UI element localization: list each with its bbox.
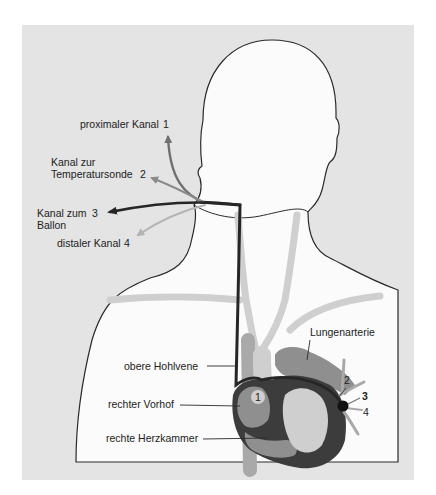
label-pulmonary-artery: Lungenarterie bbox=[310, 326, 375, 338]
channel-2-number: 2 bbox=[140, 168, 146, 180]
channel-4-number: 4 bbox=[124, 237, 130, 249]
channel-4-label: distaler Kanal bbox=[57, 237, 121, 249]
channel-3-number: 3 bbox=[92, 207, 98, 219]
atrium-port-number: 1 bbox=[255, 391, 261, 403]
tip-3-number: 3 bbox=[362, 390, 368, 402]
channel-2-label-line1: Kanal zur bbox=[51, 156, 96, 168]
channel-3-label-line2: Ballon bbox=[37, 219, 66, 231]
label-right-atrium: rechter Vorhof bbox=[108, 398, 174, 410]
channel-3-label-line1: Kanal zum bbox=[37, 207, 87, 219]
channel-2-label-line2: Temperatursonde bbox=[51, 168, 133, 180]
tip-2-number: 2 bbox=[344, 374, 350, 386]
label-right-ventricle: rechte Herzkammer bbox=[106, 432, 199, 444]
channel-1-number: 1 bbox=[163, 118, 169, 130]
channel-1-label: proximaler Kanal bbox=[80, 118, 159, 130]
catheter-diagram: 1 2 3 4 proximaler Kanal 1 Kanal zur Tem… bbox=[0, 0, 436, 495]
label-superior-vena-cava: obere Hohlvene bbox=[124, 360, 198, 372]
balloon-marker bbox=[338, 401, 349, 412]
tip-4-number: 4 bbox=[363, 406, 369, 418]
